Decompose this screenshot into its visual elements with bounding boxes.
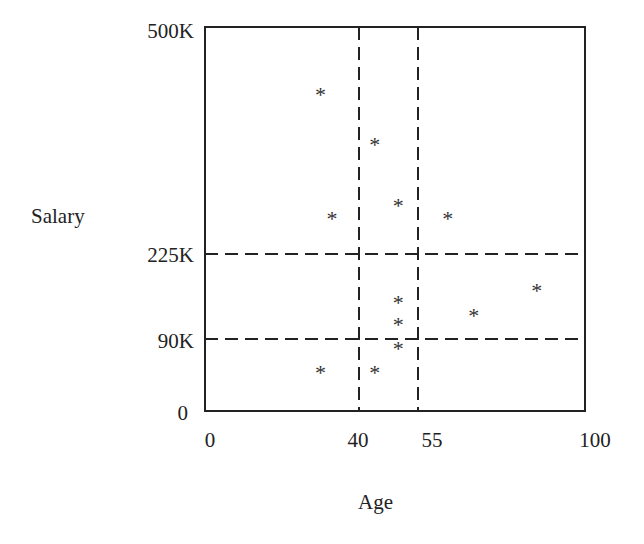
data-point-marker: * xyxy=(393,193,404,218)
data-point-marker: * xyxy=(393,336,404,361)
data-point-marker: * xyxy=(315,360,326,385)
data-point-marker: * xyxy=(442,206,453,231)
data-point-marker: * xyxy=(327,206,338,231)
data-point-marker: * xyxy=(369,132,380,157)
data-point-marker: * xyxy=(531,278,542,303)
data-point-marker: * xyxy=(468,303,479,328)
data-point-marker: * xyxy=(369,360,380,385)
plot-area: ************ xyxy=(0,0,644,544)
data-point-marker: * xyxy=(393,312,404,337)
data-point-marker: * xyxy=(315,82,326,107)
